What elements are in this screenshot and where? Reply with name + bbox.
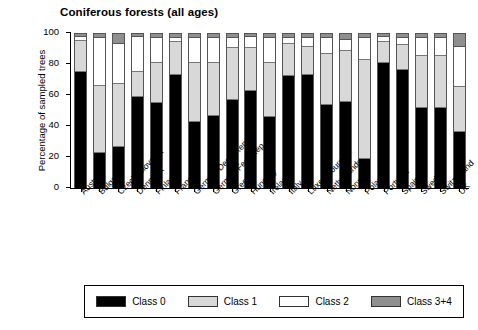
legend-swatch-c0	[96, 296, 126, 307]
bar-segment-c2	[227, 38, 238, 48]
chart-figure: Coniferous forests (all ages) Percentage…	[0, 0, 478, 330]
bar-segment-c1	[151, 63, 162, 103]
bar-segment-c0	[378, 63, 389, 188]
y-axis-tick-label: 40	[48, 119, 59, 130]
y-axis-tick-label: 0	[54, 181, 59, 192]
y-axis-title: Percentage of sampled trees	[36, 26, 47, 196]
legend-swatch-c3	[371, 296, 401, 307]
bar-segment-c1	[208, 63, 219, 115]
bar-segment-c3	[113, 34, 124, 44]
bar-luxembourg[interactable]	[301, 33, 314, 188]
bar-segment-c1	[397, 45, 408, 70]
y-axis-tick-label: 80	[48, 57, 59, 68]
bar-segment-c2	[340, 40, 351, 52]
bar-segment-c2	[245, 37, 256, 49]
bar-segment-c1	[170, 42, 181, 75]
bar-segment-c1	[340, 51, 351, 102]
bar-segment-c2	[454, 47, 465, 87]
bar-segment-c2	[321, 38, 332, 54]
bar-segment-c1	[321, 54, 332, 105]
legend-label: Class 2	[315, 296, 348, 307]
legend-item-c2[interactable]: Class 2	[279, 296, 348, 307]
bar-segment-c3	[454, 34, 465, 47]
bar-france[interactable]	[169, 33, 182, 188]
bar-segment-c2	[132, 37, 143, 73]
y-axis-tick-label: 60	[48, 88, 59, 99]
bar-segment-c2	[359, 38, 370, 60]
bar-segment-c1	[189, 63, 200, 121]
bar-segment-c1	[435, 56, 446, 108]
bar-switzerland[interactable]	[434, 33, 447, 188]
bar-italy[interactable]	[282, 33, 295, 188]
bar-german-dem-rep[interactable]	[188, 33, 201, 188]
bar-segment-c1	[94, 86, 105, 153]
legend-item-c3[interactable]: Class 3+4	[371, 296, 452, 307]
chart-legend: Class 0Class 1Class 2Class 3+4	[84, 285, 464, 318]
bar-segment-c2	[302, 38, 313, 47]
bar-segment-c2	[397, 38, 408, 45]
bar-segment-c0	[302, 75, 313, 188]
bar-segment-c1	[113, 84, 124, 147]
x-axis-labels: AustriaBulgariaCzechoslovakiaDenmarkFinl…	[70, 190, 468, 260]
bar-sweden[interactable]	[415, 33, 428, 188]
bar-segment-c1	[378, 42, 389, 63]
bar-segment-c1	[359, 60, 370, 159]
chart-title: Coniferous forests (all ages)	[60, 6, 218, 18]
legend-label: Class 3+4	[407, 296, 452, 307]
bar-segment-c2	[264, 38, 275, 63]
bar-spain[interactable]	[396, 33, 409, 188]
bar-segment-c1	[454, 87, 465, 132]
plot-area: 020406080100	[70, 33, 469, 189]
bar-segment-c1	[416, 56, 427, 108]
legend-swatch-c1	[188, 296, 218, 307]
bar-bulgaria[interactable]	[93, 33, 106, 188]
legend-label: Class 1	[224, 296, 257, 307]
legend-swatch-c2	[279, 296, 309, 307]
bar-segment-c2	[416, 38, 427, 56]
bar-portugal[interactable]	[377, 33, 390, 188]
bar-segment-c2	[113, 44, 124, 84]
bar-segment-c1	[264, 63, 275, 117]
bar-segment-c2	[94, 38, 105, 86]
legend-item-c1[interactable]: Class 1	[188, 296, 257, 307]
legend-item-c0[interactable]: Class 0	[96, 296, 165, 307]
y-axis-tick-label: 20	[48, 150, 59, 161]
bar-segment-c1	[132, 72, 143, 97]
bar-segment-c1	[75, 41, 86, 72]
bar-segment-c2	[208, 38, 219, 63]
bar-segment-c1	[245, 48, 256, 91]
bar-ireland[interactable]	[263, 33, 276, 188]
bar-segment-c2	[151, 38, 162, 63]
bar-segment-c1	[302, 47, 313, 75]
bar-austria[interactable]	[74, 33, 87, 188]
bar-segment-c2	[189, 38, 200, 63]
bar-segment-c1	[227, 48, 238, 100]
bar-group	[71, 33, 469, 188]
bar-segment-c2	[435, 38, 446, 56]
bar-czechoslovakia[interactable]	[112, 33, 125, 188]
bar-segment-c0	[75, 72, 86, 188]
legend-label: Class 0	[132, 296, 165, 307]
y-axis-tick-label: 100	[43, 26, 59, 37]
bar-segment-c1	[283, 44, 294, 77]
